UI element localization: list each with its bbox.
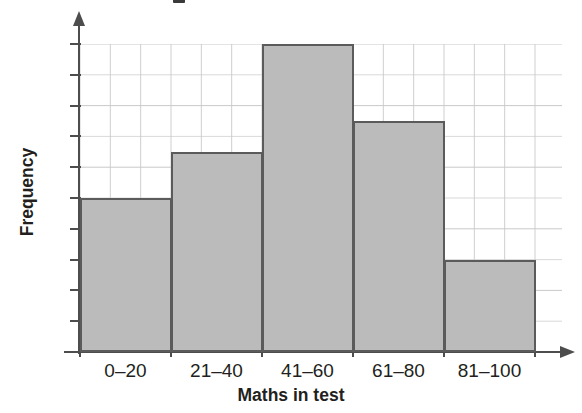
- histogram-bar: [262, 44, 354, 352]
- y-axis-tick: [70, 105, 81, 107]
- histogram-bar: [171, 152, 263, 352]
- y-axis-tick: [70, 166, 81, 168]
- y-axis-tick: [70, 74, 81, 76]
- x-axis-category-label: 21–40: [171, 360, 262, 382]
- cropped-title-remnant: [173, 0, 185, 3]
- y-axis-title: Frequency: [17, 92, 37, 292]
- x-axis-category-label: 81–100: [444, 360, 535, 382]
- histogram-bar: [80, 198, 172, 352]
- histogram-bar: [353, 121, 445, 352]
- histogram-bar: [444, 260, 536, 352]
- x-axis-category-label: 61–80: [353, 360, 444, 382]
- x-axis-category-label: 41–60: [262, 360, 353, 382]
- x-axis-category-label: 0–20: [80, 360, 171, 382]
- y-axis-tick: [70, 43, 81, 45]
- histogram-figure: 201816141210864200–2021–4041–6061–8081–1…: [0, 0, 582, 413]
- y-axis-arrow-icon: [73, 11, 85, 26]
- x-axis-arrow-icon: [560, 346, 575, 358]
- y-axis-tick: [70, 135, 81, 137]
- x-axis-title: Maths in test: [0, 385, 582, 405]
